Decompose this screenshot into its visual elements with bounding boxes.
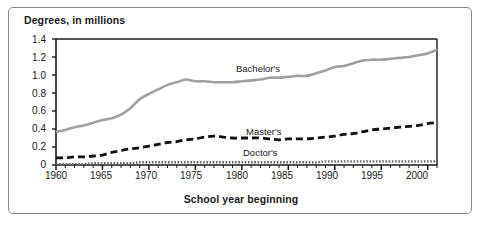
x-tick-label-2000: 2000 (397, 170, 437, 181)
y-tick-label-0.2: 0.2 (20, 141, 46, 152)
x-axis-title: School year beginning (0, 193, 482, 205)
y-tick-label-1.2: 1.2 (20, 52, 46, 63)
y-tick-label-0.8: 0.8 (20, 88, 46, 99)
chart-canvas (0, 0, 482, 225)
y-tick-label-1.4: 1.4 (20, 34, 46, 45)
y-tick-label-0.4: 0.4 (20, 123, 46, 134)
chart-plot-area: Degrees, in millions School year beginni… (0, 0, 482, 225)
y-tick-label-1.0: 1.0 (20, 70, 46, 81)
x-tick-label-1980: 1980 (217, 170, 257, 181)
x-tick-label-1990: 1990 (307, 170, 347, 181)
x-tick-label-1965: 1965 (81, 170, 121, 181)
series-label-masters: Master's (246, 126, 282, 137)
x-tick-label-1970: 1970 (126, 170, 166, 181)
y-tick-label-0: 0 (20, 159, 46, 170)
y-tick-label-0.6: 0.6 (20, 105, 46, 116)
series-label-bachelors: Bachelor's (236, 63, 280, 74)
series-label-doctors: Doctor's (243, 147, 278, 158)
x-tick-label-1960: 1960 (36, 170, 76, 181)
x-tick-label-1985: 1985 (262, 170, 302, 181)
x-tick-label-1995: 1995 (352, 170, 392, 181)
y-axis-title: Degrees, in millions (24, 14, 125, 26)
x-tick-label-1975: 1975 (171, 170, 211, 181)
series-line-doctors (56, 161, 437, 164)
